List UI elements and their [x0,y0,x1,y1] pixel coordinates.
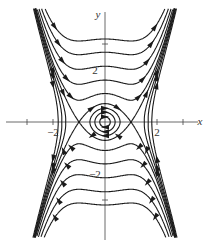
arrow-icon [134,94,141,101]
x-tick-label: −2 [47,126,59,138]
arrow-icon [51,22,58,30]
x-axis-label: x [197,115,203,127]
x-tick-label: 2 [154,126,160,138]
y-tick-label: −2 [89,168,101,180]
arrow-icon [54,39,61,47]
y-tick-label: 2 [92,64,98,76]
arrow-icon [58,57,65,65]
phase-portrait: xy−222−2 [0,0,208,246]
arrow-icon [64,162,71,169]
arrow-icon [113,104,121,111]
arrow-icon [156,155,161,163]
y-axis-label: y [95,8,101,20]
arrow-icon [60,180,67,188]
arrow-icon [50,81,55,89]
arrow-icon [68,145,75,152]
trajectory [144,9,175,238]
